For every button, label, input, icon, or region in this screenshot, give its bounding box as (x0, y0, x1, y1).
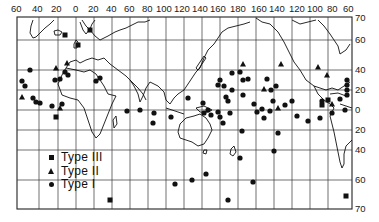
type-iii-square-marker-icon (63, 33, 68, 38)
type-i-circle-marker-icon (237, 69, 242, 74)
type-i-circle-marker-icon (342, 107, 347, 112)
europe-south-outline (66, 58, 146, 100)
type-i-circle-marker-icon (229, 70, 234, 75)
hudson-bay-outline (318, 20, 350, 54)
svg-text:40: 40 (32, 3, 43, 14)
svg-text:60: 60 (343, 3, 354, 14)
type-i-circle-marker-icon (215, 109, 220, 114)
type-i-circle-marker-icon (19, 78, 24, 83)
legend-item-type-ii: Type II (44, 165, 103, 179)
type-ii-triangle-marker-icon (315, 64, 321, 70)
type-i-circle-marker-icon (261, 115, 266, 120)
south-america-outline (330, 108, 352, 168)
type-iii-square-marker-icon (108, 198, 113, 203)
madagascar-outline (113, 116, 117, 128)
type-i-circle-marker-icon (239, 128, 244, 133)
type-i-circle-marker-icon (208, 112, 213, 117)
legend-item-type-iii: Type III (44, 151, 103, 165)
type-i-circle-marker-icon (251, 101, 256, 106)
type-i-circle-marker-icon (22, 83, 27, 88)
type-ii-triangle-marker-icon (275, 105, 281, 111)
africa-outline (58, 68, 116, 138)
type-i-circle-marker-icon (273, 83, 278, 88)
type-i-circle-marker-icon (237, 155, 242, 160)
circle-marker-icon (44, 182, 58, 187)
type-i-circle-marker-icon (282, 102, 287, 107)
legend-label: Type I (61, 178, 95, 192)
type-i-circle-marker-icon (259, 106, 264, 111)
greenland-outline (30, 20, 54, 38)
type-i-circle-marker-icon (205, 107, 210, 112)
svg-text:60: 60 (11, 3, 22, 14)
type-i-circle-marker-icon (223, 94, 228, 99)
type-i-circle-marker-icon (217, 77, 222, 82)
south-america-east-outline (340, 104, 352, 108)
triangle-marker-icon (44, 168, 58, 174)
svg-text:80: 80 (327, 3, 338, 14)
type-i-circle-marker-icon (240, 77, 245, 82)
caribbean-outline (330, 93, 346, 96)
legend: Type III Type II Type I (44, 151, 103, 192)
type-i-circle-marker-icon (305, 118, 310, 123)
svg-text:120: 120 (289, 3, 305, 14)
type-iii-square-marker-icon (326, 98, 331, 103)
canada-islands-outline (292, 20, 316, 24)
north-america-outline (256, 18, 350, 90)
northeast-asia-outline (200, 22, 250, 68)
type-i-circle-marker-icon (344, 92, 349, 97)
svg-text:70: 70 (355, 203, 366, 214)
svg-text:40: 40 (355, 64, 366, 75)
type-ii-triangle-marker-icon (261, 86, 267, 92)
type-iii-square-marker-icon (344, 194, 349, 199)
type-i-circle-marker-icon (220, 120, 225, 125)
svg-text:40: 40 (355, 144, 366, 155)
type-i-circle-marker-icon (189, 177, 194, 182)
type-i-circle-marker-icon (294, 113, 299, 118)
legend-item-type-i: Type I (44, 178, 103, 192)
type-i-circle-marker-icon (137, 107, 142, 112)
type-i-circle-marker-icon (317, 115, 322, 120)
type-i-circle-marker-icon (52, 77, 57, 82)
type-iii-square-marker-icon (88, 28, 93, 33)
type-i-circle-marker-icon (172, 181, 177, 186)
type-i-circle-marker-icon (203, 171, 208, 176)
type-i-circle-marker-icon (264, 76, 269, 81)
type-i-circle-marker-icon (227, 110, 232, 115)
type-i-circle-marker-icon (49, 103, 54, 108)
svg-text:20: 20 (51, 3, 62, 14)
svg-text:160: 160 (210, 3, 226, 14)
type-i-circle-marker-icon (97, 75, 102, 80)
svg-text:60: 60 (355, 34, 366, 45)
svg-text:140: 140 (269, 3, 285, 14)
type-iii-square-marker-icon (76, 43, 81, 48)
type-i-circle-marker-icon (225, 197, 230, 202)
type-i-circle-marker-icon (57, 76, 62, 81)
type-i-circle-marker-icon (65, 72, 70, 77)
type-ii-triangle-marker-icon (19, 94, 25, 100)
type-i-circle-marker-icon (254, 109, 259, 114)
top-longitude-labels: 60 40 20 0 20 40 60 80 100 120 140 160 1… (11, 3, 354, 14)
type-i-circle-marker-icon (271, 148, 276, 153)
type-i-circle-marker-icon (250, 179, 255, 184)
type-i-circle-marker-icon (275, 130, 280, 135)
type-i-circle-marker-icon (215, 82, 220, 87)
legend-label: Type III (61, 151, 103, 165)
type-i-circle-marker-icon (168, 114, 173, 119)
type-i-circle-marker-icon (270, 98, 275, 103)
svg-text:80: 80 (142, 3, 153, 14)
type-i-circle-marker-icon (27, 67, 32, 72)
indonesia-outline (166, 108, 184, 114)
type-i-circle-marker-icon (124, 108, 129, 113)
svg-text:70: 70 (355, 12, 366, 23)
svg-text:0: 0 (73, 3, 78, 14)
right-latitude-labels: 70 60 40 20 0 20 40 60 70 (355, 12, 366, 214)
type-i-circle-marker-icon (185, 95, 190, 100)
square-marker-icon (44, 155, 58, 160)
svg-text:100: 100 (307, 3, 323, 14)
type-i-circle-marker-icon (268, 87, 273, 92)
southeast-asia-outline (150, 68, 200, 104)
type-i-circle-marker-icon (150, 120, 155, 125)
svg-text:100: 100 (156, 3, 172, 14)
type-ii-triangle-marker-icon (278, 61, 284, 67)
svg-text:20: 20 (355, 84, 366, 95)
